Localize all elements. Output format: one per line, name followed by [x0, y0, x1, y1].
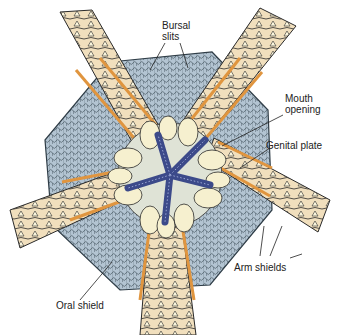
label-mouth-opening: Mouth opening: [285, 93, 321, 115]
label-line-1: Mouth: [285, 93, 321, 104]
label-arm-shields: Arm shields: [234, 262, 286, 273]
label-bursal-slits: Bursal slits: [162, 20, 190, 42]
label-line-2: opening: [285, 104, 321, 115]
label-line-1: Bursal: [162, 20, 190, 31]
brittle-star-illustration: [0, 0, 341, 335]
diagram-canvas: Bursal slits Mouth opening Genital plate…: [0, 0, 341, 335]
label-genital-plate: Genital plate: [266, 140, 322, 151]
label-line-2: slits: [162, 31, 190, 42]
label-oral-shield: Oral shield: [56, 300, 104, 311]
